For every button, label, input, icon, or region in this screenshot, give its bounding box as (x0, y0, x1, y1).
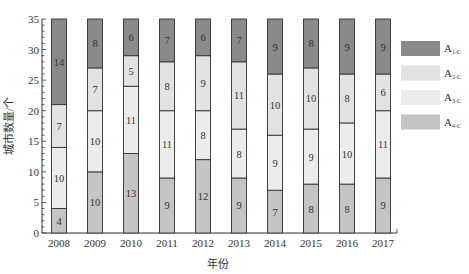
bar-2012: 12896 (196, 19, 211, 233)
segment-value-label: 12 (198, 191, 209, 202)
y-tick-label: 20 (28, 105, 40, 117)
segment-value-label: 8 (344, 93, 349, 104)
bar-2016: 81089 (340, 19, 355, 233)
segment-value-label: 9 (380, 200, 385, 211)
segment-value-label: 7 (272, 207, 277, 218)
x-tick-label: 2011 (156, 237, 178, 249)
segment-value-label: 10 (54, 173, 65, 184)
x-tick-label: 2016 (336, 237, 359, 249)
segment-value-label: 10 (342, 149, 353, 160)
segment-value-label: 9 (236, 200, 241, 211)
segment-value-label: 7 (92, 84, 97, 95)
segment-value-label: 9 (308, 152, 313, 163)
legend-item-A1-C: A1-C (401, 41, 461, 56)
legend-label: A2-C (444, 67, 461, 80)
segment-value-label: 10 (306, 93, 317, 104)
segment-value-label: 7 (164, 35, 169, 46)
y-axis: 05101520253035 (28, 13, 46, 239)
segment-value-label: 11 (234, 90, 244, 101)
bar-2011: 91187 (160, 19, 175, 233)
legend-swatch (401, 41, 440, 56)
segment-value-label: 10 (90, 136, 101, 147)
segment-value-label: 8 (164, 81, 169, 92)
segment-value-label: 9 (200, 78, 205, 89)
x-tick-label: 2010 (120, 237, 143, 249)
legend-label: A4-C (444, 116, 461, 129)
legend-item-A2-C: A2-C (401, 66, 461, 81)
segment-value-label: 7 (56, 121, 61, 132)
segment-value-label: 6 (200, 32, 205, 43)
segment-value-label: 11 (378, 139, 388, 150)
legend: A1-CA2-CA3-CA4-C (401, 41, 461, 130)
segment-value-label: 11 (162, 139, 172, 150)
segment-value-label: 14 (54, 57, 65, 68)
segment-value-label: 11 (126, 115, 136, 126)
segment-value-label: 6 (128, 32, 133, 43)
segment-value-label: 9 (272, 158, 277, 169)
x-axis-title: 年份 (207, 257, 229, 270)
legend-label: A1-C (444, 42, 461, 55)
segment-value-label: 5 (128, 66, 133, 77)
x-tick-label: 2013 (228, 237, 251, 249)
segment-value-label: 13 (126, 188, 137, 199)
y-tick-label: 30 (28, 44, 40, 56)
bars: 4107141010781311569118712896981177910989… (52, 19, 391, 233)
y-tick-label: 35 (28, 13, 40, 25)
x-tick-label: 2012 (192, 237, 214, 249)
bar-2014: 79109 (268, 19, 283, 233)
x-tick-label: 2014 (264, 237, 287, 249)
bar-2015: 89108 (304, 19, 319, 233)
legend-label: A3-C (444, 91, 461, 104)
segment-value-label: 9 (344, 42, 349, 53)
stacked-bar-chart: 05101520253035 2008200920102011201220132… (0, 0, 469, 274)
x-tick-label: 2017 (372, 237, 395, 249)
y-tick-label: 15 (28, 135, 40, 147)
x-tick-label: 2008 (48, 237, 71, 249)
x-tick-label: 2009 (84, 237, 107, 249)
segment-value-label: 8 (344, 204, 349, 215)
segment-value-label: 8 (308, 204, 313, 215)
segment-value-label: 9 (164, 200, 169, 211)
legend-swatch (401, 66, 440, 81)
segment-value-label: 8 (200, 130, 205, 141)
y-tick-label: 0 (34, 227, 40, 239)
segment-value-label: 6 (380, 87, 385, 98)
legend-swatch (401, 90, 440, 105)
segment-value-label: 9 (272, 42, 277, 53)
x-tick-label: 2015 (300, 237, 323, 249)
segment-value-label: 4 (56, 216, 62, 227)
segment-value-label: 10 (90, 197, 101, 208)
y-tick-label: 5 (34, 196, 40, 208)
bar-2013: 98117 (232, 19, 247, 233)
bar-2009: 101078 (88, 19, 103, 233)
segment-value-label: 9 (380, 42, 385, 53)
y-tick-label: 10 (28, 166, 40, 178)
segment-value-label: 10 (270, 100, 281, 111)
segment-value-label: 7 (236, 35, 241, 46)
y-axis-title: 城市数量/个 (2, 97, 15, 155)
legend-item-A4-C: A4-C (401, 115, 461, 130)
legend-swatch (401, 115, 440, 130)
y-tick-label: 25 (28, 74, 40, 86)
bar-2008: 410714 (52, 19, 67, 233)
segment-value-label: 8 (92, 38, 97, 49)
legend-item-A3-C: A3-C (401, 90, 461, 105)
bar-2010: 131156 (124, 19, 139, 233)
bar-2017: 91169 (376, 19, 391, 233)
segment-value-label: 8 (308, 38, 313, 49)
segment-value-label: 8 (236, 149, 241, 160)
